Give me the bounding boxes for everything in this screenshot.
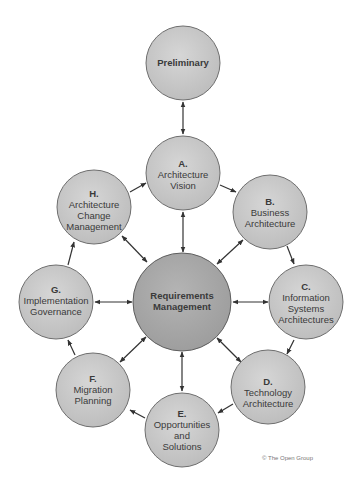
node-g-line-2: Governance [30,306,82,317]
node-requirements-management: Requirements Management [133,253,231,351]
arrow-b-center [217,240,243,264]
arrow-a-b [220,185,236,192]
arrow-f-g [68,340,75,355]
node-b-line-2: Architecture [245,218,296,229]
node-preliminary-label: Preliminary [157,57,209,68]
node-d-line-2: Architecture [243,398,294,409]
arrow-d-e [218,404,233,413]
node-e-line-3: Solutions [162,441,201,452]
node-g-line-1: Implementation [24,295,89,306]
arrow-d-center [217,338,241,362]
node-h-letter: H. [89,188,99,199]
arrow-e-f [130,410,145,418]
center-line-1: Requirements [150,290,213,301]
node-c-information-systems: C. Information Systems Architectures [269,265,343,339]
arrow-b-c [287,246,294,264]
node-h-line-3: Management [66,221,122,232]
node-e-line-1: Opportunities [154,419,211,430]
node-a-line-2: Vision [170,180,196,191]
node-e-line-2: and [174,430,190,441]
node-preliminary: Preliminary [146,26,220,100]
node-c-line-1: Information [282,292,330,303]
node-c-letter: C. [301,281,311,292]
node-e-opportunities-solutions: E. Opportunities and Solutions [145,393,219,467]
node-h-line-1: Architecture [69,199,120,210]
node-b-letter: B. [265,196,275,207]
arrow-h-a [130,183,146,192]
node-g-implementation-governance: G. Implementation Governance [19,265,93,339]
node-h-architecture-change-management: H. Architecture Change Management [57,170,131,244]
adm-diagram: Preliminary A. Architecture Vision B. Bu… [0,0,361,487]
node-d-technology-architecture: D. Technology Architecture [231,350,305,424]
node-d-line-1: Technology [244,387,292,398]
node-b-line-1: Business [251,207,290,218]
node-e-letter: E. [178,408,187,419]
node-f-letter: F. [89,373,96,384]
node-h-line-2: Change [77,210,110,221]
node-g-letter: G. [51,284,61,295]
node-a-architecture-vision: A. Architecture Vision [146,136,220,210]
arrow-g-h [68,242,74,265]
arrow-f-center [120,337,146,362]
node-c-line-2: Systems [288,303,325,314]
arrow-c-d [287,340,294,354]
copyright-notice: © The Open Group [262,455,313,461]
node-f-migration-planning: F. Migration Planning [56,353,130,427]
node-c-line-3: Architectures [278,314,334,325]
node-b-business-architecture: B. Business Architecture [233,175,307,249]
node-f-line-2: Planning [75,395,112,406]
node-a-line-1: Architecture [158,169,209,180]
arrow-h-center [122,236,147,262]
node-f-line-1: Migration [73,384,112,395]
node-d-letter: D. [263,376,273,387]
center-line-2: Management [153,301,212,312]
node-a-letter: A. [178,158,188,169]
